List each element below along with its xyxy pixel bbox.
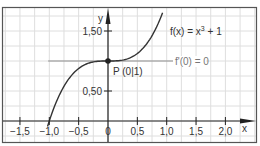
x-tick-label: 0,5 [130,126,144,137]
x-tick-label: −0,5 [69,126,89,137]
x-tick-label: 1,5 [189,126,203,137]
point-p-dot [105,58,111,64]
function-plot: −1,5−1,0−0,500,51,01,52,00,501,50 x y P … [0,0,260,146]
point-label: P (0|1) [113,66,143,77]
x-tick-label: −1,0 [39,126,59,137]
function-curve [48,13,163,127]
y-tick-label: 1,50 [83,26,103,37]
function-label-tail: + 1 [205,26,222,37]
x-tick-label: 1,0 [160,126,174,137]
x-axis-label: x [242,123,247,134]
y-tick-label: 0,50 [83,86,103,97]
x-tick-label: 2,0 [218,126,232,137]
x-tick-label: −1,5 [10,126,30,137]
axis-ticks: −1,5−1,0−0,500,51,01,52,00,501,50 [10,26,233,138]
function-curve-path [48,13,163,127]
y-axis-label: y [98,13,103,24]
function-label: f(x) = x3 + 1 [170,25,222,37]
point-p-marker [105,58,111,64]
tangent-label: f'(0) = 0 [175,56,209,67]
function-label-base: f(x) = x [170,26,201,37]
x-tick-label: 0 [105,126,111,137]
